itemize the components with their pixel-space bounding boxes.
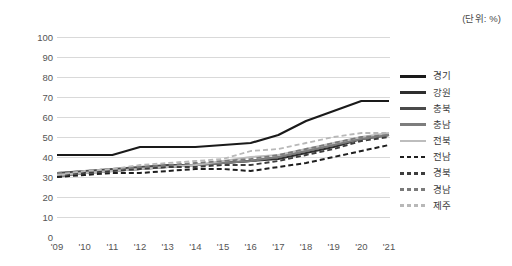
legend-label: 경남 bbox=[433, 185, 451, 195]
legend-label: 경북 bbox=[433, 168, 451, 178]
y-axis: 1009080706050403020100 bbox=[0, 0, 53, 266]
y-axis-tick: 0 bbox=[7, 232, 53, 243]
unit-note: (단위: %) bbox=[462, 11, 501, 25]
legend-label: 충북 bbox=[433, 104, 451, 114]
chart-svg bbox=[57, 37, 390, 237]
legend-item-충남[interactable]: 충남 bbox=[400, 117, 508, 133]
legend-swatch-icon bbox=[400, 123, 426, 126]
gridlines bbox=[57, 38, 390, 238]
y-axis-tick: 20 bbox=[7, 192, 53, 203]
x-axis-tick: '12 bbox=[134, 241, 146, 252]
x-axis-tick: '10 bbox=[78, 241, 90, 252]
legend-label: 전북 bbox=[433, 136, 451, 146]
chart-container: (단위: %) 1009080706050403020100 '09'10'11… bbox=[0, 0, 512, 266]
legend-item-전남[interactable]: 전남 bbox=[400, 149, 508, 165]
x-axis: '09'10'11'12'13'14'15'16'17'18'19'20'21 bbox=[57, 241, 390, 259]
legend-item-경북[interactable]: 경북 bbox=[400, 165, 508, 181]
legend-label: 제주 bbox=[433, 201, 451, 211]
x-axis-tick: '13 bbox=[161, 241, 173, 252]
y-axis-tick: 60 bbox=[7, 112, 53, 123]
legend-item-제주[interactable]: 제주 bbox=[400, 198, 508, 214]
plot-area bbox=[57, 37, 390, 237]
y-axis-tick: 90 bbox=[7, 52, 53, 63]
legend-label: 경기 bbox=[433, 71, 451, 81]
legend-swatch-icon bbox=[400, 204, 426, 207]
legend-item-충북[interactable]: 충북 bbox=[400, 100, 508, 116]
x-axis-tick: '18 bbox=[300, 241, 312, 252]
legend-label: 충남 bbox=[433, 120, 451, 130]
x-axis-tick: '09 bbox=[51, 241, 63, 252]
x-axis-tick: '21 bbox=[383, 241, 395, 252]
x-axis-tick: '17 bbox=[272, 241, 284, 252]
legend-swatch-icon bbox=[400, 188, 426, 191]
legend-label: 강원 bbox=[433, 88, 451, 98]
y-axis-tick: 80 bbox=[7, 72, 53, 83]
y-axis-tick: 100 bbox=[7, 32, 53, 43]
legend-label: 전남 bbox=[433, 152, 451, 162]
legend-item-경남[interactable]: 경남 bbox=[400, 181, 508, 197]
legend-item-전북[interactable]: 전북 bbox=[400, 133, 508, 149]
x-axis-tick: '16 bbox=[244, 241, 256, 252]
legend-swatch-icon bbox=[400, 140, 426, 143]
legend-item-경기[interactable]: 경기 bbox=[400, 68, 508, 84]
y-axis-tick: 30 bbox=[7, 172, 53, 183]
x-axis-tick: '19 bbox=[327, 241, 339, 252]
x-axis-tick: '15 bbox=[217, 241, 229, 252]
legend-item-강원[interactable]: 강원 bbox=[400, 84, 508, 100]
y-axis-tick: 40 bbox=[7, 152, 53, 163]
y-axis-tick: 70 bbox=[7, 92, 53, 103]
legend-swatch-icon bbox=[400, 91, 426, 94]
legend-swatch-icon bbox=[400, 156, 426, 159]
x-axis-tick: '20 bbox=[355, 241, 367, 252]
y-axis-tick: 50 bbox=[7, 132, 53, 143]
chart-legend: 경기강원충북충남전북전남경북경남제주 bbox=[400, 68, 508, 214]
legend-swatch-icon bbox=[400, 75, 426, 78]
y-axis-tick: 10 bbox=[7, 212, 53, 223]
x-axis-tick: '14 bbox=[189, 241, 201, 252]
legend-swatch-icon bbox=[400, 172, 426, 175]
series-lines bbox=[57, 101, 389, 177]
x-axis-tick: '11 bbox=[106, 241, 118, 252]
legend-swatch-icon bbox=[400, 107, 426, 110]
